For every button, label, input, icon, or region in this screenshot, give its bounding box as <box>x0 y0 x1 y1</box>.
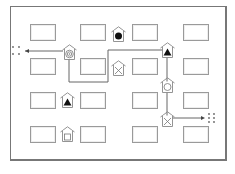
house-icon <box>111 26 126 42</box>
house-icon <box>160 111 175 127</box>
house-x-right <box>160 111 175 127</box>
house-square <box>60 126 75 142</box>
arrowhead-icon <box>25 49 29 53</box>
filled-circle-icon <box>115 33 122 40</box>
house-icon <box>111 60 126 76</box>
house-triangle-right <box>160 42 175 58</box>
house-filled-circle <box>111 26 126 42</box>
house-x <box>111 60 126 76</box>
house-icon <box>160 42 175 58</box>
end-marker-icon <box>208 113 215 123</box>
house-icon <box>160 77 175 93</box>
house-icon <box>60 92 75 108</box>
house-target <box>62 44 77 60</box>
house-circle-line <box>160 77 175 93</box>
house-triangle-left <box>60 92 75 108</box>
house-icon <box>60 126 75 142</box>
house-icon <box>62 44 77 60</box>
start-marker-icon <box>12 46 20 55</box>
arrowhead-icon <box>201 116 205 120</box>
